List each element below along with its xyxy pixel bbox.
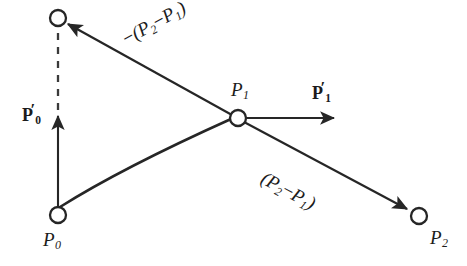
bezier-curve: [60, 119, 231, 207]
p1-tangent-label: P′1: [312, 79, 331, 105]
point-p2-letter: P: [430, 227, 442, 248]
point-p1-letter: P: [231, 79, 243, 100]
p1-tangent-subscript: 1: [325, 92, 331, 104]
p0-tangent-label: P′0: [22, 101, 41, 127]
figure-canvas: P′0 P0 P1 P′1 P2 −(P2−P1) (P2−P1): [0, 0, 467, 266]
point-p0-letter: P: [43, 229, 55, 250]
point-p1-label: P1: [231, 80, 249, 101]
point-p2-node: [411, 208, 427, 224]
point-p0-node: [50, 207, 66, 223]
p0-tangent-subscript: 0: [35, 114, 41, 126]
point-p2-subscript: 2: [442, 236, 448, 250]
point-p1-node: [230, 110, 246, 126]
point-p0-subscript: 0: [55, 238, 61, 252]
delta-arrow: [244, 122, 407, 209]
diagram-svg: [0, 0, 467, 266]
point-p1-subscript: 1: [243, 88, 249, 102]
point-p2-label: P2: [430, 228, 448, 249]
control-point-top-node: [50, 10, 66, 26]
point-p0-label: P0: [43, 230, 61, 251]
